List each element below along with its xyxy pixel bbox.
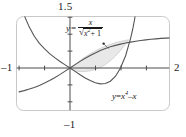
curve-label-x4-minus-x: y=x4–x xyxy=(112,92,137,101)
fraction-denominator: √ x2+ 1 xyxy=(78,28,103,38)
quartic-label-tail: x xyxy=(133,91,137,101)
curve-label-lhs: y xyxy=(66,24,70,33)
fraction-numerator: x xyxy=(85,19,97,27)
radical: √ x2+ 1 xyxy=(79,28,102,38)
x-axis-min-label: –1 xyxy=(1,62,12,73)
area-between-curves-figure: 1.5 –1 –1 2 y = x √ x2+ 1 y=x4–x xyxy=(0,0,186,137)
curve-label-equals: = xyxy=(71,24,76,33)
x-axis-max-label: 2 xyxy=(174,62,180,73)
y-axis-min-label: –1 xyxy=(64,119,75,130)
fraction: x √ x2+ 1 xyxy=(78,19,103,38)
y-axis-max-label: 1.5 xyxy=(58,1,72,12)
radicand-tail: + 1 xyxy=(91,29,102,38)
curve-label-x-over-sqrt-x2-plus-1: y = x √ x2+ 1 xyxy=(66,19,103,38)
radicand: x2+ 1 xyxy=(83,28,102,38)
